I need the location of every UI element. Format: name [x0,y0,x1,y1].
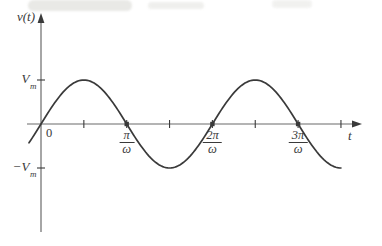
minus-sign: − [13,159,21,174]
fraction-numerator: π [119,129,134,142]
fraction-denominator: ω [203,142,222,156]
neg-vm-subscript: m [30,169,37,179]
sine-plot-canvas [0,0,382,246]
vm-tick-label: Vm [4,72,36,91]
sine-wave-figure: v(t) Vm −Vm 0 πω 2πω 3πω t [0,0,382,246]
neg-vm-base: V [22,159,30,174]
fraction-numerator: 3π [289,129,308,142]
vm-subscript: m [30,81,37,91]
pi-over-omega-label: πω [119,129,134,156]
fraction-numerator: 2π [203,129,222,142]
y-axis-arrowhead [38,13,45,23]
three-pi-over-omega-label: 3πω [289,129,308,156]
x-axis-arrowhead [352,121,362,128]
fraction-denominator: ω [119,142,134,156]
origin-label: 0 [46,126,52,140]
fraction-denominator: ω [289,142,308,156]
two-pi-over-omega-label: 2πω [203,129,222,156]
neg-vm-tick-label: −Vm [0,160,36,179]
vm-base: V [22,71,30,86]
x-axis-label: t [348,129,352,143]
y-axis-label: v(t) [17,10,35,24]
